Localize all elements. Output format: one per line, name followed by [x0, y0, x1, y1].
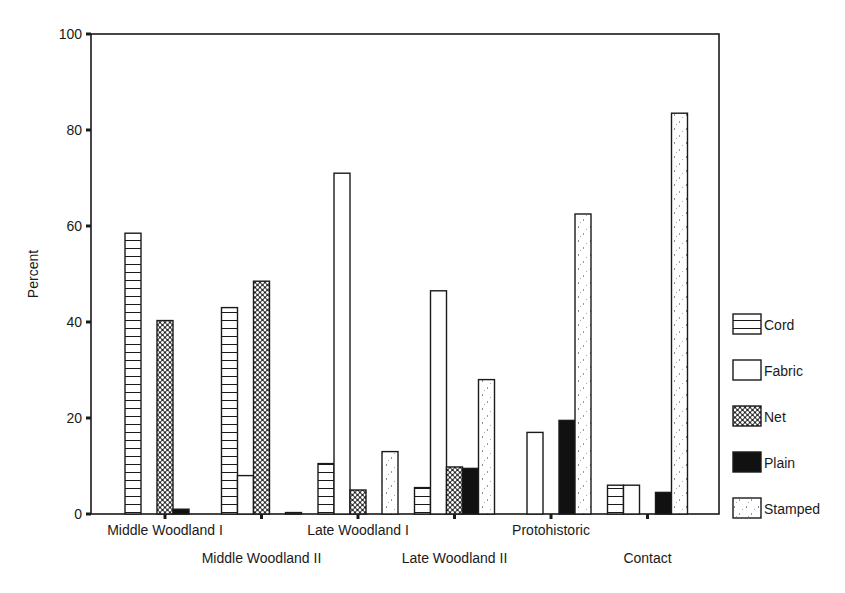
legend-item-cord: Cord: [733, 314, 794, 334]
bar-plain-4: [559, 420, 575, 514]
bar-cord-1: [222, 308, 238, 514]
bar-stamped-5: [672, 113, 688, 514]
x-axis: Middle Woodland IMiddle Woodland IILate …: [107, 514, 672, 566]
bar-plain-0: [173, 509, 189, 514]
stamped-swatch-icon: [733, 498, 761, 518]
x-category-label: Middle Woodland II: [202, 550, 322, 566]
bar-chart: 020406080100 Middle Woodland IMiddle Woo…: [0, 0, 845, 593]
bar-fabric-4: [527, 432, 543, 514]
bar-stamped-1: [286, 513, 302, 514]
y-tick-label: 40: [66, 314, 82, 330]
bar-stamped-3: [479, 380, 495, 514]
legend-item-net: Net: [733, 406, 786, 426]
legend-label: Net: [764, 409, 786, 425]
fabric-swatch-icon: [733, 360, 761, 380]
bar-cord-2: [318, 464, 334, 514]
bar-plain-3: [463, 468, 479, 514]
x-category-label: Late Woodland I: [307, 522, 409, 538]
bar-plain-5: [656, 492, 672, 514]
y-tick-label: 100: [59, 26, 83, 42]
bar-cord-5: [608, 485, 624, 514]
x-category-label: Protohistoric: [512, 522, 590, 538]
x-category-label: Middle Woodland I: [107, 522, 223, 538]
x-category-label: Contact: [623, 550, 671, 566]
legend-label: Plain: [764, 455, 795, 471]
plot-area: [91, 34, 719, 514]
bar-stamped-4: [575, 214, 591, 514]
net-swatch-icon: [733, 406, 761, 426]
bar-fabric-5: [624, 485, 640, 514]
y-tick-label: 0: [74, 506, 82, 522]
legend-label: Cord: [764, 317, 794, 333]
legend-label: Fabric: [764, 363, 803, 379]
legend: CordFabricNetPlainStamped: [733, 314, 820, 518]
cord-swatch-icon: [733, 314, 761, 334]
bar-fabric-2: [334, 173, 350, 514]
bar-net-3: [447, 467, 463, 514]
legend-item-stamped: Stamped: [733, 498, 820, 518]
y-tick-label: 80: [66, 122, 82, 138]
bar-fabric-1: [238, 476, 254, 514]
bar-fabric-3: [431, 291, 447, 514]
bar-cord-3: [415, 488, 431, 514]
legend-item-fabric: Fabric: [733, 360, 803, 380]
legend-item-plain: Plain: [733, 452, 795, 472]
y-axis: 020406080100: [59, 26, 91, 522]
bar-net-0: [157, 321, 173, 514]
plot-frame: [91, 34, 719, 514]
legend-label: Stamped: [764, 501, 820, 517]
bar-net-1: [254, 281, 270, 514]
y-tick-label: 20: [66, 410, 82, 426]
bar-net-2: [350, 490, 366, 514]
y-axis-title: Percent: [25, 250, 41, 298]
x-category-label: Late Woodland II: [402, 550, 508, 566]
plain-swatch-icon: [733, 452, 761, 472]
y-tick-label: 60: [66, 218, 82, 234]
bar-stamped-2: [382, 452, 398, 514]
bar-cord-0: [125, 233, 141, 514]
